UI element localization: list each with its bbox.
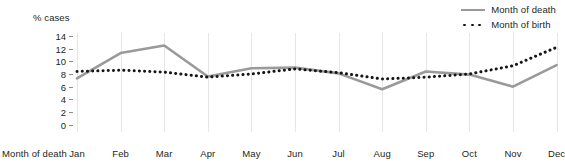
x-axis-caption: Month of death — [2, 148, 67, 159]
series-line-month-of-birth — [77, 47, 557, 79]
series-line-month-of-death — [77, 45, 557, 89]
